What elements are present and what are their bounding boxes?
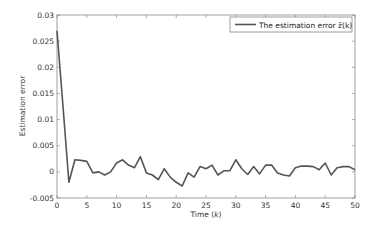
legend: The estimation error z̃(k)	[230, 17, 352, 32]
x-tick-label: 50	[350, 201, 360, 210]
y-tick-label: 0.005	[33, 141, 55, 150]
x-tick-label: 15	[142, 201, 152, 210]
x-tick-label: 40	[291, 201, 301, 210]
x-axis-label: Time (k)	[190, 210, 222, 219]
y-tick-label: 0	[49, 167, 54, 176]
line-chart: 05101520253035404550 -0.00500.0050.010.0…	[0, 0, 374, 229]
y-tick-label: 0.025	[33, 37, 55, 46]
legend-label: The estimation error z̃(k)	[258, 21, 352, 30]
x-axis-tick-labels: 05101520253035404550	[55, 201, 360, 210]
x-tick-label: 25	[201, 201, 211, 210]
y-tick-label: 0.03	[37, 11, 54, 20]
axis-ticks	[57, 15, 355, 198]
x-tick-label: 30	[231, 201, 241, 210]
y-tick-label: 0.02	[37, 63, 54, 72]
estimation-error-line	[57, 31, 355, 186]
plot-area-frame	[57, 15, 355, 198]
y-axis-tick-labels: -0.00500.0050.010.0150.020.0250.03	[30, 11, 54, 203]
x-tick-label: 45	[320, 201, 330, 210]
y-axis-label: Estimation error	[18, 75, 27, 136]
y-tick-label: 0.015	[33, 89, 55, 98]
x-tick-label: 20	[171, 201, 181, 210]
y-tick-label: -0.005	[30, 194, 54, 203]
y-tick-label: 0.01	[37, 115, 54, 124]
x-tick-label: 35	[261, 201, 271, 210]
x-tick-label: 5	[84, 201, 89, 210]
x-tick-label: 10	[112, 201, 122, 210]
x-tick-label: 0	[55, 201, 60, 210]
